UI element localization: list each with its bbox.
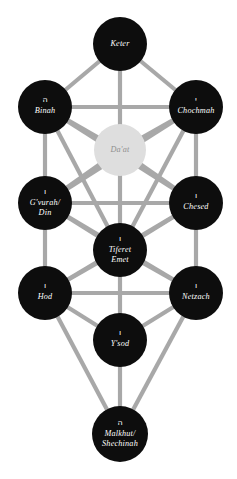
node-label-keter: Keter <box>109 39 130 48</box>
hebrew-letter-gvurah-din: ו <box>44 187 46 196</box>
node-chesed[interactable]: וChesed <box>169 176 223 230</box>
node-tiferet-emet[interactable]: וTiferetEmet <box>93 223 147 277</box>
hebrew-letter-binah: ה <box>42 95 47 104</box>
hebrew-letter-tiferet-emet: ו <box>119 234 121 243</box>
node-label-ysod: Y'sod <box>111 339 130 348</box>
node-hod[interactable]: וHod <box>18 266 72 320</box>
node-gvurah-din[interactable]: וG'vurah/Din <box>18 176 72 230</box>
node-netzach[interactable]: וNetzach <box>169 266 223 320</box>
node-label-secondary-malkhut-shechinah: Shechinah <box>102 439 138 448</box>
node-label-daat: Da'at <box>109 145 130 154</box>
tree-of-life-svg: KeterהBinahיChochmahDa'atוG'vurah/DinוCh… <box>0 0 237 479</box>
node-label-netzach: Netzach <box>181 292 210 301</box>
node-ysod[interactable]: וY'sod <box>93 313 147 367</box>
node-label-malkhut-shechinah: Malkhut/ <box>103 429 136 438</box>
node-label-binah: Binah <box>35 106 56 115</box>
node-label-chesed: Chesed <box>183 202 209 211</box>
hebrew-letter-chochmah: י <box>195 95 197 104</box>
tree-of-life-diagram: KeterהBinahיChochmahDa'atוG'vurah/DinוCh… <box>0 0 237 479</box>
hebrew-letter-hod: ו <box>44 281 46 290</box>
node-label-secondary-tiferet-emet: Emet <box>110 255 129 264</box>
node-chochmah[interactable]: יChochmah <box>169 80 223 134</box>
node-label-hod: Hod <box>37 292 53 301</box>
node-label-chochmah: Chochmah <box>177 106 214 115</box>
node-label-secondary-gvurah-din: Din <box>38 208 52 217</box>
node-daat[interactable]: Da'at <box>94 124 146 176</box>
node-malkhut-shechinah[interactable]: הMalkhut/Shechinah <box>92 406 148 462</box>
hebrew-letter-netzach: ו <box>195 281 197 290</box>
node-label-tiferet-emet: Tiferet <box>109 245 132 254</box>
hebrew-letter-chesed: ו <box>195 191 197 200</box>
hebrew-letter-ysod: ו <box>119 328 121 337</box>
node-binah[interactable]: הBinah <box>18 80 72 134</box>
hebrew-letter-malkhut-shechinah: ה <box>117 418 122 427</box>
node-keter[interactable]: Keter <box>93 17 147 71</box>
node-label-gvurah-din: G'vurah/ <box>30 198 61 207</box>
